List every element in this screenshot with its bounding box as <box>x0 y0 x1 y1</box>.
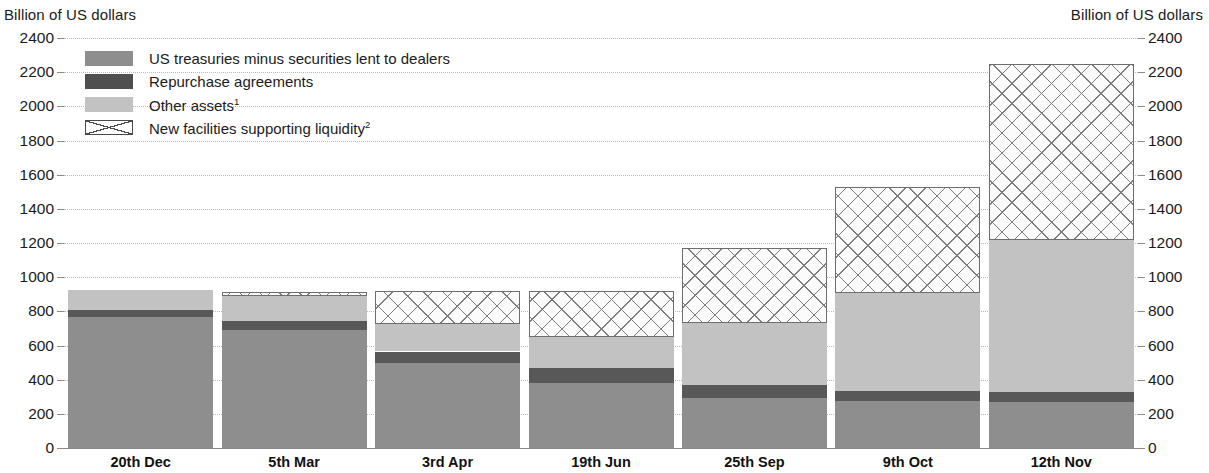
y-tick-label-right: 0 <box>1148 440 1157 456</box>
bar-segment-newfac[interactable] <box>375 291 520 324</box>
x-axis-label: 12th Nov <box>989 454 1134 470</box>
bar-group[interactable] <box>989 38 1134 448</box>
y-tick-mark-left <box>57 448 64 449</box>
bar-segment-other[interactable] <box>68 290 213 310</box>
y-tick-label-left: 2200 <box>20 64 54 80</box>
legend-label: US treasuries minus securities lent to d… <box>149 50 450 67</box>
bar-segment-other[interactable] <box>682 323 827 385</box>
bar-group[interactable] <box>835 38 980 448</box>
y-tick-label-right: 1000 <box>1148 269 1182 285</box>
y-tick-mark-left <box>57 175 64 176</box>
y-tick-mark-left <box>57 72 64 73</box>
bar-group[interactable] <box>682 38 827 448</box>
y-tick-mark-left <box>57 311 64 312</box>
legend-item-treasuries[interactable]: US treasuries minus securities lent to d… <box>85 48 605 69</box>
legend-label: New facilities supporting liquidity2 <box>149 119 370 137</box>
y-tick-mark-right <box>1138 106 1145 107</box>
legend-swatch-other <box>85 97 133 112</box>
y-tick-mark-right <box>1138 414 1145 415</box>
y-tick-mark-right <box>1138 448 1145 449</box>
x-axis-label: 9th Oct <box>835 454 980 470</box>
y-tick-label-left: 1400 <box>20 201 54 217</box>
y-tick-label-right: 2000 <box>1148 98 1182 114</box>
bar-segment-newfac[interactable] <box>529 291 674 337</box>
bar-segment-treasuries[interactable] <box>222 330 367 448</box>
y-tick-label-right: 2400 <box>1148 30 1182 46</box>
bar-segment-other[interactable] <box>835 293 980 391</box>
x-axis-label: 5th Mar <box>222 454 367 470</box>
bar-segment-repo[interactable] <box>68 310 213 318</box>
bar-segment-treasuries[interactable] <box>989 402 1134 448</box>
x-axis-label: 25th Sep <box>682 454 827 470</box>
y-tick-mark-left <box>57 277 64 278</box>
y-tick-mark-left <box>57 414 64 415</box>
y-tick-mark-right <box>1138 72 1145 73</box>
y-tick-mark-left <box>57 243 64 244</box>
bar-segment-newfac[interactable] <box>989 64 1134 240</box>
bar-segment-other[interactable] <box>222 296 367 321</box>
legend-item-repo[interactable]: Repurchase agreements <box>85 71 605 92</box>
y-tick-label-right: 1200 <box>1148 235 1182 251</box>
y-tick-label-left: 1000 <box>20 269 54 285</box>
y-tick-label-left: 200 <box>28 406 54 422</box>
legend-swatch-treasuries <box>85 51 133 66</box>
bar-segment-repo[interactable] <box>989 392 1134 402</box>
bar-segment-newfac[interactable] <box>835 187 980 293</box>
bar-segment-treasuries[interactable] <box>835 401 980 448</box>
bar-segment-repo[interactable] <box>835 391 980 401</box>
bar-segment-treasuries[interactable] <box>375 363 520 448</box>
y-tick-mark-left <box>57 141 64 142</box>
y-tick-mark-left <box>57 106 64 107</box>
y-tick-mark-right <box>1138 141 1145 142</box>
bar-segment-repo[interactable] <box>375 352 520 363</box>
bar-segment-newfac[interactable] <box>682 248 827 323</box>
bar-segment-repo[interactable] <box>222 321 367 330</box>
y-tick-mark-left <box>57 38 64 39</box>
right-axis-caption: Billion of US dollars <box>1071 6 1203 23</box>
y-tick-label-right: 200 <box>1148 406 1174 422</box>
bar-segment-treasuries[interactable] <box>529 383 674 448</box>
y-tick-mark-right <box>1138 209 1145 210</box>
y-tick-label-left: 2400 <box>20 30 54 46</box>
y-tick-label-left: 800 <box>28 303 54 319</box>
y-tick-label-left: 1200 <box>20 235 54 251</box>
y-tick-label-right: 800 <box>1148 303 1174 319</box>
y-tick-mark-right <box>1138 380 1145 381</box>
y-tick-label-left: 1800 <box>20 133 54 149</box>
gridline <box>64 448 1138 449</box>
x-axis-label: 3rd Apr <box>375 454 520 470</box>
legend-item-newfac[interactable]: New facilities supporting liquidity2 <box>85 117 605 138</box>
y-tick-label-right: 2200 <box>1148 64 1182 80</box>
legend-footnote-marker: 2 <box>365 119 370 130</box>
legend-item-other[interactable]: Other assets1 <box>85 94 605 115</box>
bar-segment-other[interactable] <box>989 240 1134 392</box>
bar-segment-repo[interactable] <box>682 385 827 399</box>
y-tick-label-right: 400 <box>1148 372 1174 388</box>
y-tick-mark-right <box>1138 277 1145 278</box>
y-tick-mark-right <box>1138 243 1145 244</box>
y-tick-mark-right <box>1138 175 1145 176</box>
y-tick-mark-right <box>1138 346 1145 347</box>
legend-swatch-repo <box>85 74 133 89</box>
x-axis-label: 20th Dec <box>68 454 213 470</box>
y-tick-label-right: 1400 <box>1148 201 1182 217</box>
y-tick-mark-right <box>1138 38 1145 39</box>
y-tick-label-left: 400 <box>28 372 54 388</box>
left-axis-caption: Billion of US dollars <box>4 6 136 23</box>
y-tick-label-left: 1600 <box>20 167 54 183</box>
bar-segment-other[interactable] <box>375 324 520 351</box>
bar-segment-newfac[interactable] <box>222 292 367 296</box>
legend-swatch-newfac <box>85 120 133 135</box>
bar-segment-treasuries[interactable] <box>682 398 827 448</box>
chart-legend: US treasuries minus securities lent to d… <box>85 48 605 140</box>
bar-segment-other[interactable] <box>529 337 674 368</box>
y-tick-mark-right <box>1138 311 1145 312</box>
y-tick-mark-left <box>57 209 64 210</box>
y-tick-label-right: 1600 <box>1148 167 1182 183</box>
y-tick-mark-left <box>57 346 64 347</box>
y-tick-label-right: 600 <box>1148 338 1174 354</box>
y-tick-label-left: 600 <box>28 338 54 354</box>
bar-segment-repo[interactable] <box>529 368 674 383</box>
y-tick-label-left: 0 <box>45 440 54 456</box>
bar-segment-treasuries[interactable] <box>68 317 213 448</box>
